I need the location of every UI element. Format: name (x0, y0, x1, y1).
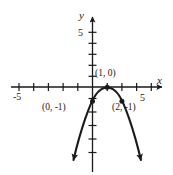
plot-canvas (0, 0, 173, 175)
x-axis-tick-label-5: 5 (140, 93, 145, 103)
y-axis-tick-label-5: 5 (78, 28, 83, 38)
x-axis-tick-label-negative-5: -5 (13, 92, 21, 102)
parabola-figure: y x 5 5 -5 (1, 0) (0, -1) (2, -1) (0, 0, 173, 175)
point-vertex-marker (105, 85, 110, 90)
y-axis-label: y (79, 10, 84, 21)
left-point-label: (0, -1) (42, 103, 66, 113)
point-left-marker (90, 99, 95, 104)
right-point-label: (2, -1) (112, 103, 136, 113)
parabola-right-branch (107, 87, 141, 160)
vertex-point-label: (1, 0) (95, 69, 116, 79)
x-axis-label: x (157, 75, 162, 86)
